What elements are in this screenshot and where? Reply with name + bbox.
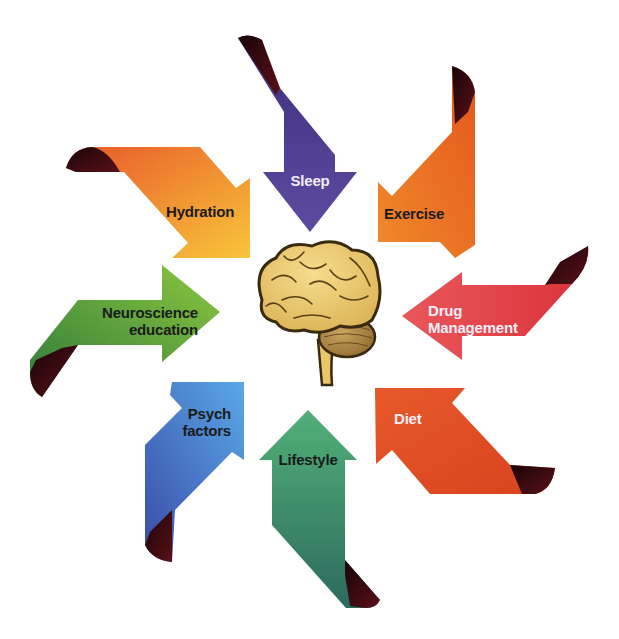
arrow-label-hydration: Hydration (166, 203, 234, 220)
arrow-label-psych-factors-line2: factors (175, 422, 231, 439)
brain-icon (259, 242, 380, 385)
arrow-label-neuroscience-education: Neuroscience education (86, 304, 198, 338)
arrow-label-drug-management-line2: Management (428, 319, 518, 336)
pain-management-pinwheel-diagram: Sleep Exercise Drug Management Diet Life… (0, 0, 619, 639)
arrow-label-psych-factors: Psych factors (175, 405, 231, 439)
arrow-label-lifestyle: Lifestyle (258, 451, 358, 468)
arrow-sleep (238, 35, 357, 232)
arrow-exercise (378, 66, 475, 258)
arrow-label-diet: Diet (394, 410, 422, 427)
arrow-label-drug-management-line1: Drug (428, 302, 518, 319)
arrow-label-neuroscience-education-line1: Neuroscience (86, 304, 198, 321)
arrow-label-psych-factors-line1: Psych (175, 405, 231, 422)
arrow-label-neuroscience-education-line2: education (86, 321, 198, 338)
arrow-label-sleep: Sleep (285, 172, 335, 189)
arrow-label-exercise: Exercise (384, 205, 444, 222)
arrow-diet (375, 388, 555, 494)
arrow-lifestyle (259, 410, 380, 608)
arrow-label-drug-management: Drug Management (428, 302, 518, 336)
